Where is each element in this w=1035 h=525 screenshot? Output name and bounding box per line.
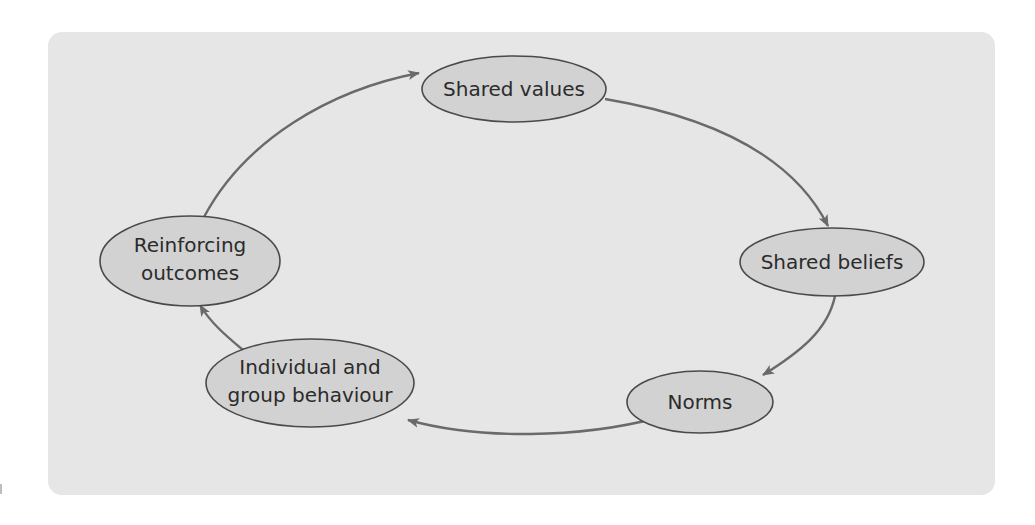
node-label-line-2: group behaviour bbox=[228, 383, 394, 407]
node-label: Norms bbox=[668, 390, 733, 414]
node-label-line-1: Reinforcing bbox=[134, 233, 247, 257]
arrow-behaviour-to-outcomes bbox=[200, 305, 243, 350]
node-label: Shared values bbox=[443, 77, 585, 101]
node-shared-beliefs: Shared beliefs bbox=[740, 228, 924, 296]
node-reinforcing-outcomes: Reinforcing outcomes bbox=[100, 216, 280, 306]
node-label: Shared beliefs bbox=[761, 250, 904, 274]
node-label-line-1: Individual and bbox=[239, 355, 380, 379]
arrow-values-to-beliefs bbox=[605, 99, 828, 226]
node-shared-values: Shared values bbox=[422, 56, 606, 122]
arrow-beliefs-to-norms bbox=[763, 296, 835, 375]
node-individual-group-behaviour: Individual and group behaviour bbox=[206, 339, 414, 427]
node-norms: Norms bbox=[627, 371, 773, 433]
arrow-norms-to-behaviour bbox=[408, 418, 657, 434]
arrow-outcomes-to-values bbox=[204, 73, 419, 217]
node-label-line-2: outcomes bbox=[141, 261, 239, 285]
culture-cycle-diagram: Shared values Shared beliefs Norms Indiv… bbox=[0, 0, 1035, 525]
